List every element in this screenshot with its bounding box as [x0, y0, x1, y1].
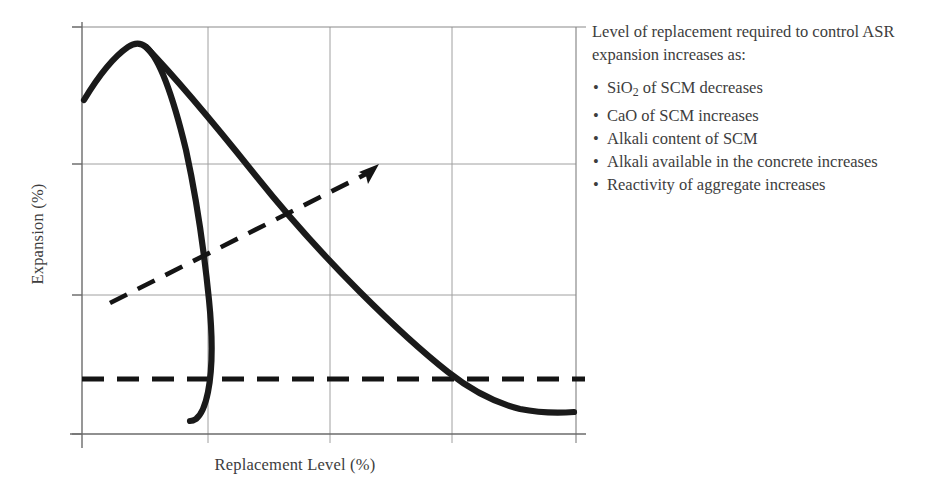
- bullet-dot-icon: •: [593, 104, 599, 127]
- chart-panel: Expansion (%) Replacement Level (%): [0, 0, 590, 499]
- arrow-shaft: [110, 174, 366, 303]
- annotation-bullet-text: Alkali available in the concrete increas…: [607, 152, 878, 171]
- increasing-replacement-arrow: [110, 164, 379, 303]
- bullet-dot-icon: •: [593, 76, 599, 99]
- annotation-bullet-item: •CaO of SCM increases: [592, 104, 932, 127]
- annotation-panel: Level of replacement required to control…: [592, 20, 932, 196]
- annotation-bullet-text: SiO: [607, 78, 633, 97]
- bullet-dot-icon: •: [593, 173, 599, 196]
- annotation-bullet-text: Reactivity of aggregate increases: [607, 175, 826, 194]
- asr-expansion-figure: Expansion (%) Replacement Level (%) Leve…: [0, 0, 936, 499]
- gridlines: [72, 27, 576, 443]
- expansion-vs-replacement-chart: [0, 0, 590, 450]
- annotation-bullet-text: Alkali content of SCM: [607, 129, 758, 148]
- bullet-dot-icon: •: [593, 150, 599, 173]
- annotation-bullet-item: •SiO2 of SCM decreases: [592, 76, 932, 104]
- annotation-intro-text: Level of replacement required to control…: [592, 20, 932, 66]
- annotation-bullet-text-suffix: of SCM decreases: [639, 78, 763, 97]
- annotation-bullet-list: •SiO2 of SCM decreases•CaO of SCM increa…: [592, 76, 932, 196]
- y-axis-title: Expansion (%): [28, 134, 48, 334]
- annotation-bullet-item: •Reactivity of aggregate increases: [592, 173, 932, 196]
- x-axis-title: Replacement Level (%): [0, 455, 590, 475]
- axes: [70, 22, 586, 448]
- bullet-dot-icon: •: [593, 127, 599, 150]
- annotation-bullet-text: CaO of SCM increases: [607, 106, 759, 125]
- annotation-bullet-item: •Alkali content of SCM: [592, 127, 932, 150]
- annotation-bullet-item: •Alkali available in the concrete increa…: [592, 150, 932, 173]
